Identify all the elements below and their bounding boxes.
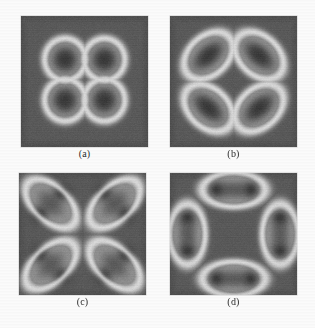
panel-a-canvas — [21, 16, 148, 147]
panel-c-wrap: (c) — [0, 0, 315, 328]
panel-b-plot — [170, 16, 297, 147]
panel-a-plot — [21, 16, 148, 147]
paper-grain-overlay — [0, 0, 315, 328]
panel-d-label: (d) — [170, 296, 297, 308]
panel-b-canvas — [170, 16, 297, 147]
panel-d-canvas — [170, 173, 297, 295]
panel-c-label: (c) — [19, 296, 146, 308]
panel-a-label: (a) — [21, 148, 148, 160]
panel-b-label: (b) — [170, 148, 297, 160]
panel-c-plot — [19, 173, 146, 295]
panel-b-wrap: (b) — [0, 0, 315, 328]
panel-a-wrap: (a) — [0, 0, 315, 328]
panel-c-canvas — [19, 173, 146, 295]
panel-d-wrap: (d) — [0, 0, 315, 328]
panel-d-plot — [170, 173, 297, 295]
figure-root: (a) (b) (c) (d) — [0, 0, 315, 328]
